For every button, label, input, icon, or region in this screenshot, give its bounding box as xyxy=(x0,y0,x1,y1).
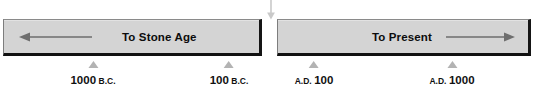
tick-era: A.D. xyxy=(429,76,446,86)
tick-number: 100 xyxy=(314,74,333,86)
arrow-down-icon xyxy=(264,0,278,20)
triangle-up-icon xyxy=(309,61,319,68)
timeline-tick-1000-bc: 1000B.C. xyxy=(70,61,115,87)
triangle-up-icon xyxy=(88,61,98,68)
timeline-bar-right-label: To Present xyxy=(372,31,432,43)
arrow-right-icon xyxy=(446,31,516,43)
timeline-tick-label: A.D.100 xyxy=(295,71,334,87)
timeline-bar-left: To Stone Age xyxy=(3,19,262,56)
timeline-tick-label: A.D.1000 xyxy=(429,71,474,87)
timeline-tick-label: 1000B.C. xyxy=(70,71,115,87)
arrow-left-icon xyxy=(18,31,94,43)
timeline-bar-left-label: To Stone Age xyxy=(122,31,197,43)
timeline-tick-100-bc: 100B.C. xyxy=(210,61,249,87)
tick-number: 1000 xyxy=(449,74,475,86)
tick-number: 100 xyxy=(210,74,229,86)
tick-number: 1000 xyxy=(70,74,96,86)
tick-era: B.C. xyxy=(231,76,248,86)
timeline-bar-right: To Present xyxy=(277,19,531,56)
timeline-figure: To Stone Age To Present 1000B.C. 100B.C. xyxy=(0,0,534,93)
timeline-tick-ad-100: A.D.100 xyxy=(295,61,334,87)
triangle-up-icon xyxy=(447,61,457,68)
timeline-tick-ad-1000: A.D.1000 xyxy=(429,61,474,87)
tick-era: A.D. xyxy=(295,76,312,86)
timeline-tick-label: 100B.C. xyxy=(210,71,249,87)
triangle-up-icon xyxy=(224,61,234,68)
tick-era: B.C. xyxy=(99,76,116,86)
